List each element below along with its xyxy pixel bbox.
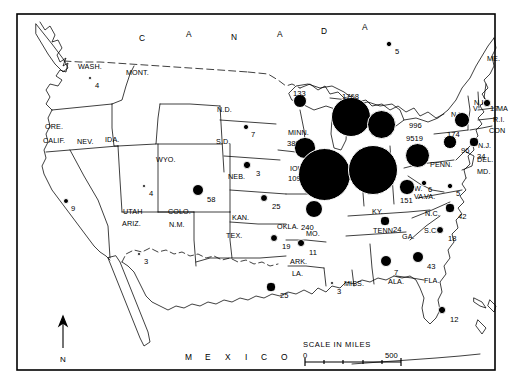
state-label-ida: IDA. [105,135,119,144]
state-label-n-m: N.M. [169,220,185,229]
state-label-kan: KAN. [232,213,249,222]
data-dot [348,145,398,195]
data-value-label: 17 [490,104,498,113]
state-label-penn: PENN. [430,160,452,169]
data-value-label: 58 [207,195,215,204]
data-value-label: 174 [447,130,460,139]
nv-ut-border [118,146,122,212]
north-letter: N [60,355,66,364]
data-value-label: 25 [272,202,280,211]
ar-la [288,266,324,268]
data-dot [386,41,391,46]
data-dot [270,234,278,242]
country-letter: I [245,352,248,362]
state-label-ga: GA. [402,232,415,241]
state-label-calif: CALIF. [43,136,65,145]
data-value-label: 11 [309,248,317,257]
state-label-ariz: ARIZ. [122,219,141,228]
state-label-neb: NEB. [228,172,245,181]
data-value-label: 133 [293,89,306,98]
data-value-label: 4 [149,189,153,198]
data-value-label: 741 [412,145,425,154]
north-arrow: N [54,348,72,366]
mo-ar [286,240,326,242]
state-label-ark: ARK. [290,257,307,266]
north-arrow-graphic [59,316,67,348]
data-dot [469,137,478,146]
data-value-label: 25 [280,291,288,300]
data-value-label: 1768 [342,92,359,101]
data-dot [438,306,445,313]
data-dot [445,203,454,212]
data-dot [454,112,470,128]
state-label-mass: MA [497,104,508,113]
data-value-label: 996 [409,121,422,130]
state-label-n-c: N.C. [425,209,440,218]
data-dot [421,180,426,185]
data-value-label: 3 [337,287,341,296]
al-ga [370,244,374,284]
state-label-conn: CON [489,126,505,135]
tn-ky [348,210,430,216]
data-dot [380,255,392,267]
baja-california [108,256,150,346]
country-letter: O [281,352,288,362]
data-value-label: 7 [251,130,255,139]
state-label-n-j: N.J. [478,141,491,150]
canada-border-west [40,22,68,110]
ok-tx [232,256,286,258]
scale-endpoints: 0 500 [303,349,371,358]
data-value-label: 5 [456,189,460,198]
data-dot [63,198,69,204]
data-dot [331,97,371,137]
state-label-okla: OKLA. [277,222,299,231]
data-value-label: 34 [477,152,485,161]
state-label-fla: FLA. [424,276,440,285]
state-label-r-i: R.I. [493,115,505,124]
state-label-tex: TEX. [226,231,242,240]
country-letter: E [205,352,211,362]
distribution-map-figure: CANADAMEXICO WASH.MONT.ORE.IDA.CALIF.NEV… [0,0,512,391]
country-letter: N [231,32,237,42]
country-letter: C [139,33,145,43]
data-value-label: 6 [428,185,432,194]
data-dot [367,110,396,139]
data-dot [399,179,414,194]
country-letter: X [225,352,231,362]
state-label-la: LA. [292,269,303,278]
sd-ne [224,156,280,160]
data-value-label: 19 [282,242,290,251]
or-ca-border [46,146,118,152]
ne-ks [230,190,286,194]
data-dot [297,239,305,247]
scale-max-label: 500 [385,351,398,360]
data-value-label: 43 [427,262,435,271]
state-label-miss: MISS. [344,279,364,288]
data-dot [243,161,250,168]
state-label-wyo: WYO. [156,155,176,164]
state-label-colo: COLO. [168,207,191,216]
bahamas-3 [476,320,486,334]
state-label-minn: MINN. [288,128,309,137]
data-value-label: 18 [448,234,456,243]
country-letter: A [277,29,283,39]
data-dot [266,282,275,291]
country-letter: A [186,29,192,39]
state-label-mont: MONT. [126,68,149,77]
data-dot [380,216,389,225]
bahamas-1 [474,298,486,308]
data-value-label: 3 [256,169,260,178]
scale-bar: SCALE IN MILES 0 500 [303,340,371,358]
state-label-wash: WASH. [78,62,102,71]
country-letter: A [362,22,368,32]
state-label-vt: V [473,104,478,113]
ca-nv-border [70,150,110,258]
wa-or-border [52,104,112,110]
state-label-nev: NEV. [77,137,94,146]
state-label-ore: ORE. [45,122,63,131]
country-letter: M [185,352,192,362]
pacific-coast [42,110,110,260]
scale-title: SCALE IN MILES [303,340,371,349]
state-label-n-d: N.D. [217,105,232,114]
country-letter: C [261,352,267,362]
